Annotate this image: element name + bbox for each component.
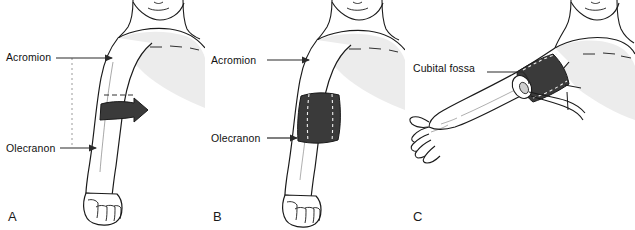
panel-b-illustration — [205, 0, 405, 230]
nose-line — [591, 2, 600, 4]
mouth-line — [347, 8, 368, 10]
panel-letter-c: C — [413, 209, 423, 224]
panel-letter-b: B — [213, 209, 222, 224]
jaw-outline — [571, 2, 619, 20]
cuff-wrapped — [298, 93, 341, 143]
label-cubital-fossa: Cubital fossa — [413, 62, 475, 74]
fist-outline — [84, 193, 122, 225]
panel-b: Acromion Olecranon B — [205, 0, 405, 230]
panel-a-illustration — [0, 0, 205, 230]
label-acromion-b: Acromion — [211, 54, 256, 66]
nose-line — [353, 2, 362, 4]
label-olecranon-a: Olecranon — [6, 142, 55, 154]
jaw-outline — [332, 2, 383, 20]
neck-right-outline — [617, 0, 634, 43]
fist-outline — [283, 195, 321, 227]
neck-left-outline — [555, 0, 571, 48]
panel-c-illustration — [405, 0, 635, 230]
thumb — [410, 117, 429, 128]
nose-line — [154, 2, 163, 4]
panel-c: Cubital fossa C — [405, 0, 635, 230]
mouth-line — [148, 8, 169, 10]
figure-root: Acromion Olecranon A — [0, 0, 635, 230]
label-olecranon-b: Olecranon — [211, 132, 260, 144]
mouth-line — [585, 8, 606, 10]
panel-a: Acromion Olecranon A — [0, 0, 205, 230]
jaw-outline — [133, 2, 184, 20]
label-acromion-a: Acromion — [6, 51, 51, 63]
neck-right-outline — [382, 0, 399, 40]
panel-letter-a: A — [8, 209, 17, 224]
